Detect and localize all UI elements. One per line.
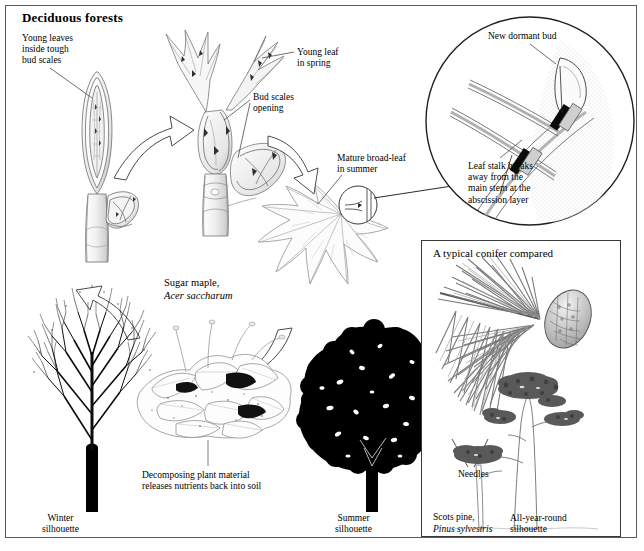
figure-page: Deciduous forests	[0, 0, 644, 551]
label-leader-lines	[0, 0, 644, 551]
